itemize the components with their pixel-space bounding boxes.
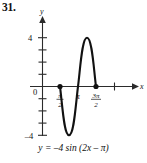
y-tick-label-0: 0: [33, 87, 37, 97]
y-tick-label-neg4: –4: [24, 131, 34, 141]
three-pi-over-2-denominator: 2: [94, 101, 98, 109]
y-tick-label-4: 4: [28, 33, 33, 43]
x-tick-label-3pi-over-2: 3π 2: [91, 92, 101, 109]
graph-plot: x y 4 0 –4 π 2: [0, 0, 147, 163]
x-axis-arrowhead: [132, 83, 139, 90]
y-axis-label: y: [39, 7, 44, 16]
y-axis-arrowhead: [39, 16, 46, 23]
three-pi-over-2-numerator: 3π: [91, 92, 100, 100]
marked-point-pi-over-2: [57, 84, 62, 89]
y-axis: y: [39, 7, 46, 136]
figure-container: 31. x y 4 0 –4: [0, 0, 147, 163]
x-axis: x: [30, 82, 144, 91]
x-axis-label: x: [139, 82, 144, 91]
marked-point-3pi-over-2: [93, 84, 98, 89]
equation-caption: y = –4 sin (2x – π): [0, 143, 147, 153]
